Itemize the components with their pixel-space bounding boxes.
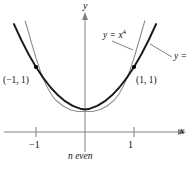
x-tick-label-negative-one: −1 <box>29 140 40 150</box>
curve-label-quartic: y = x4 <box>103 29 126 41</box>
curve-label-quartic-exponent: 4 <box>123 28 126 35</box>
point-label-one-one: (1, 1) <box>136 76 157 86</box>
curve-label-quadratic: y = <box>174 52 187 62</box>
leader-line-quartic <box>112 41 133 50</box>
graph-figure: y x −1 1 (−1, 1) (1, 1) y = x4 y = n eve… <box>0 0 193 170</box>
point-label-minus-one-one: (−1, 1) <box>3 76 29 86</box>
caption-text: n even <box>68 151 93 161</box>
y-axis-label: y <box>83 1 87 11</box>
x-axis-label: x <box>180 126 184 136</box>
y-axis-arrowhead <box>82 12 88 20</box>
point-dot-left <box>34 65 38 69</box>
x-tick-label-positive-one: 1 <box>128 140 133 150</box>
leader-line-quadratic <box>150 44 172 57</box>
curve-label-quartic-base: y = x <box>103 30 123 40</box>
point-dot-right <box>132 65 136 69</box>
figure-caption: n even <box>68 152 93 162</box>
